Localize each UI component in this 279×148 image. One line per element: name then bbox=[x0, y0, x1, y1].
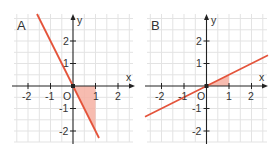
y-tick-label: -1 bbox=[192, 102, 201, 114]
y-tick-label: -1 bbox=[59, 102, 68, 114]
origin-point-a bbox=[71, 84, 75, 88]
x-tick-label: 1 bbox=[226, 90, 232, 102]
x-axis-label-a: x bbox=[126, 71, 132, 83]
panel-label-a: A bbox=[17, 18, 26, 33]
y-axis-label-a: y bbox=[77, 14, 83, 26]
origin-label-b: O bbox=[197, 90, 205, 102]
panel-b: B y x O -2 -1 1 2 2 1 -1 -2 bbox=[145, 14, 268, 144]
y-tick-label: -2 bbox=[192, 125, 201, 137]
x-tick-label: -2 bbox=[22, 90, 31, 102]
x-tick-label: -1 bbox=[45, 90, 54, 102]
y-tick-label: 2 bbox=[63, 35, 69, 47]
x-axis-arrow-a bbox=[129, 84, 135, 89]
origin-point-b bbox=[205, 84, 209, 88]
y-axis-arrow-b bbox=[204, 14, 209, 20]
y-axis-label-b: y bbox=[211, 14, 217, 26]
y-tick-label: 2 bbox=[196, 35, 202, 47]
x-tick-label: 2 bbox=[115, 90, 121, 102]
panel-label-b: B bbox=[151, 18, 160, 33]
y-tick-label: 1 bbox=[196, 57, 202, 69]
x-tick-label: -2 bbox=[155, 90, 164, 102]
x-axis-arrow-b bbox=[262, 84, 268, 89]
y-tick-label: -2 bbox=[59, 125, 68, 137]
y-axis-arrow-a bbox=[71, 14, 76, 20]
x-tick-label: 2 bbox=[248, 90, 254, 102]
x-tick-label: -1 bbox=[178, 90, 187, 102]
origin-label-a: O bbox=[63, 90, 71, 102]
y-tick-label: 1 bbox=[63, 57, 69, 69]
panel-a: A y x O -2 -1 1 2 2 1 -1 -2 bbox=[12, 14, 135, 144]
x-axis-label-b: x bbox=[259, 71, 265, 83]
figure: A y x O -2 -1 1 2 2 1 -1 -2 bbox=[0, 0, 279, 148]
x-tick-label: 1 bbox=[93, 90, 99, 102]
